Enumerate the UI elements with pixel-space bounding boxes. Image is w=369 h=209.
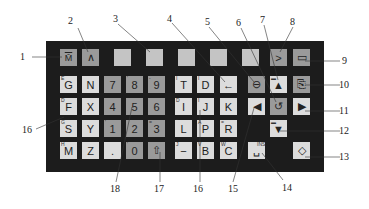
key-f[interactable]: DF (60, 98, 77, 115)
key-caret[interactable]: ∧ (82, 49, 99, 66)
key-y[interactable]: Y (82, 120, 99, 137)
key-2[interactable]: 2 (126, 120, 143, 137)
callout-18: 18 (110, 184, 120, 194)
shift-screen-icon: ⎘ (297, 78, 306, 91)
key-6[interactable]: 6 (148, 98, 165, 115)
key-l[interactable]: ‾L (175, 120, 192, 137)
callout-17: 17 (154, 184, 164, 194)
callout-6: 6 (236, 18, 241, 28)
key-delete[interactable]: ⊖ (248, 76, 265, 93)
key-8[interactable]: '8 (126, 76, 143, 93)
key-5[interactable]: 5 (126, 98, 143, 115)
key-x[interactable]: X (82, 98, 99, 115)
key-p[interactable]: AP (197, 120, 214, 137)
callout-2: 2 (68, 16, 73, 26)
key-0[interactable]: '0 (126, 142, 143, 159)
key-greater[interactable]: > (270, 49, 287, 66)
callout-7: 7 (260, 15, 265, 25)
key-d[interactable]: ID (197, 76, 214, 93)
screen-icon: ▭ (297, 51, 307, 64)
callout-9: 9 (342, 56, 347, 66)
triangle-right-icon: ▶ (298, 100, 306, 113)
delete-icon: ⊖ (252, 78, 261, 91)
callout-12: 12 (339, 126, 349, 136)
key-input[interactable]: ◇ (293, 142, 310, 159)
key-z[interactable]: Z (82, 142, 99, 159)
key-k[interactable]: K (220, 98, 237, 115)
key-backspace[interactable]: ← (220, 76, 237, 93)
callout-10: 10 (339, 80, 349, 90)
callout-11: 11 (339, 106, 349, 116)
key-m-letter[interactable]: HM (60, 142, 77, 159)
key-3[interactable]: =3 (148, 120, 165, 137)
key-c[interactable]: WC (220, 142, 237, 159)
key-9[interactable]: -9 (148, 76, 165, 93)
callout-3: 3 (113, 14, 118, 24)
callout-4: 4 (167, 14, 172, 24)
callout-5: 5 (205, 17, 210, 27)
key-s[interactable]: GS (60, 120, 77, 137)
callout-8: 8 (290, 17, 295, 27)
key-cursor-right[interactable]: ▶ (293, 98, 310, 115)
callout-13: 13 (339, 152, 349, 162)
key-screen[interactable]: ▭ (293, 49, 310, 66)
key-m[interactable]: M̄ (60, 49, 77, 66)
key-i[interactable]: DI (175, 98, 192, 115)
key-b[interactable]: VB (197, 142, 214, 159)
callout-16-left: 16 (22, 125, 32, 135)
key-7[interactable]: 7 (104, 76, 121, 93)
key-blank-4[interactable] (210, 49, 227, 66)
key-t[interactable]: IT (175, 76, 192, 93)
callout-14: 14 (282, 183, 292, 193)
key-minus[interactable]: J− (175, 142, 192, 159)
key-shift[interactable]: ⇧ (148, 142, 165, 159)
key-n[interactable]: N (82, 76, 99, 93)
key-1[interactable]: '1 (104, 120, 121, 137)
key-shift-screen[interactable]: ⎘ (293, 76, 310, 93)
key-page-down[interactable]: ▬▼ (270, 120, 287, 137)
key-blank-2[interactable] (146, 49, 163, 66)
key-4[interactable]: 4 (104, 98, 121, 115)
callout-15: 15 (228, 184, 238, 194)
callout-1: 1 (20, 52, 25, 62)
shift-arrow-icon: ⇧ (152, 144, 161, 157)
key-j[interactable]: IJ (197, 98, 214, 115)
key-blank-3[interactable] (178, 49, 195, 66)
key-reset[interactable]: ↺ (270, 98, 287, 115)
key-dot[interactable]: . (104, 142, 121, 159)
key-page-up[interactable]: ▬▲ (270, 76, 287, 93)
key-blank-1[interactable] (114, 49, 131, 66)
reset-icon: ↺ (274, 100, 283, 113)
triangle-left-icon: ◀ (253, 100, 261, 113)
key-blank-5[interactable] (242, 49, 259, 66)
arrow-left-icon: ← (223, 79, 234, 91)
key-g[interactable]: EG (60, 76, 77, 93)
key-cursor-left[interactable]: ◀ (248, 98, 265, 115)
input-diamond-icon: ◇ (298, 144, 306, 157)
key-insert[interactable]: INS␣ (248, 142, 265, 159)
callout-16-right: 16 (193, 184, 203, 194)
key-r[interactable]: =R (220, 120, 237, 137)
